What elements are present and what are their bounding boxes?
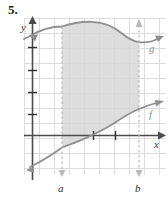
curve-label-g: g xyxy=(149,42,155,54)
y-axis xyxy=(28,16,37,180)
shaded-region xyxy=(62,22,139,148)
guide-b-up-arrow xyxy=(136,19,143,27)
boundary-label-a: a xyxy=(58,182,64,194)
curve-label-f: f xyxy=(149,108,154,120)
guide-a-arrow xyxy=(59,170,66,177)
y-axis-label: y xyxy=(20,21,26,33)
figure-container: 5. xyxy=(0,0,168,204)
problem-number: 5. xyxy=(8,2,18,18)
x-axis-label: x xyxy=(153,138,159,150)
boundary-label-b: b xyxy=(135,182,141,194)
guide-b-down-arrow xyxy=(136,170,143,177)
graph-svg: y x g f a b xyxy=(0,0,168,204)
